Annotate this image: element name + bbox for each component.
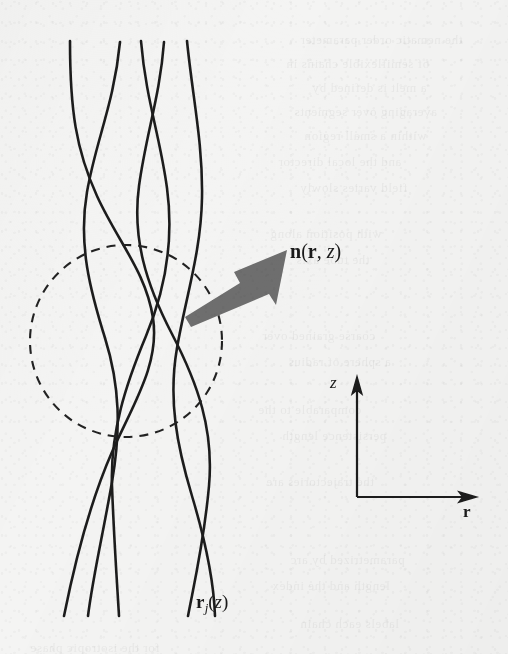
director-arrow-shape	[185, 250, 287, 327]
chain-symbol-r: r	[196, 591, 204, 612]
director-field-label: n(r, z)	[290, 240, 341, 263]
chain-trajectory-group	[64, 41, 215, 616]
chain-trajectory-label: rj(z)	[196, 591, 228, 616]
director-paren-open: (	[301, 240, 308, 262]
director-symbol-n: n	[290, 240, 301, 262]
chain-paren-close: )	[222, 591, 228, 612]
axis-label-z: z	[330, 373, 337, 393]
chain-trajectory	[64, 41, 154, 616]
figure-drawing	[0, 0, 508, 654]
chain-symbol-z: z	[215, 591, 222, 612]
chain-trajectory	[112, 41, 170, 616]
director-symbol-r: r	[308, 240, 317, 262]
coordinate-axes	[351, 374, 479, 503]
chain-trajectory	[173, 41, 215, 616]
director-paren-close: )	[334, 240, 341, 262]
director-arrow	[185, 250, 287, 327]
director-comma: ,	[317, 240, 327, 262]
axis-label-r: r	[463, 502, 471, 522]
figure-root: the nematic order parameter of semiflexi…	[0, 0, 508, 654]
